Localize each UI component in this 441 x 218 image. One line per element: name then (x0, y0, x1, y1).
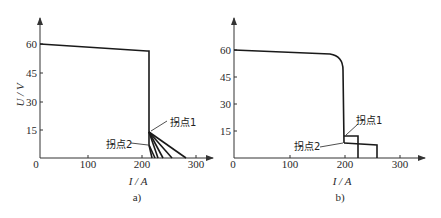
x-tick-label: 300 (188, 158, 205, 170)
chart-b: 60 45 30 15 0 100 200 300 I / A b) 拐点1 拐… (220, 18, 425, 204)
chart-a: 60 45 30 15 0 100 200 300 U / V I / A a)… (14, 18, 213, 204)
annotation-inflection-2: 拐点2 (294, 140, 320, 152)
annotation-inflection-1: 拐点1 (170, 116, 196, 128)
annotation-inflection-2: 拐点2 (106, 138, 132, 150)
x-tick-label: 0 (230, 158, 236, 170)
y-tick-label: 30 (26, 96, 38, 108)
y-tick-label: 15 (220, 125, 232, 137)
x-axis-title: I / A (128, 175, 148, 187)
y-tick-label: 45 (220, 71, 232, 83)
y-axis-title: U / V (14, 82, 26, 107)
y-tick-label: 15 (26, 124, 38, 136)
x-tick-label: 300 (392, 158, 409, 170)
y-tick-label: 30 (220, 98, 232, 110)
x-tick-label: 100 (282, 158, 299, 170)
x-tick-label: 200 (337, 158, 354, 170)
x-tick-label: 200 (134, 158, 151, 170)
y-tick-label: 60 (220, 44, 232, 56)
x-tick-label: 100 (80, 158, 97, 170)
y-tick-label: 60 (26, 38, 38, 50)
annotation-inflection-1: 拐点1 (356, 114, 382, 126)
panel-caption: a) (133, 191, 142, 204)
y-tick-label: 45 (26, 67, 38, 79)
x-tick-label: 0 (33, 158, 39, 170)
figure: 60 45 30 15 0 100 200 300 U / V I / A a)… (0, 0, 441, 218)
panel-caption: b) (335, 191, 345, 204)
x-axis-title: I / A (332, 175, 352, 187)
